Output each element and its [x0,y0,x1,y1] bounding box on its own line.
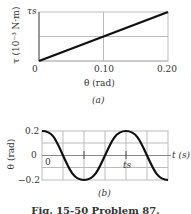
panel-a-y-axis-label: τ (10⁻³ N·m) [11,5,21,65]
panel-b-x-origin: 0 [45,157,51,167]
panel-a-plot [39,12,168,61]
panel-b-caption: (b) [98,188,111,198]
panel-a-x-tick-010: 0.10 [94,64,114,74]
panel-a-caption: (a) [92,95,104,105]
panel-a-x-axis-label: θ (rad) [84,78,115,88]
panel-b-y-tick-zero: 0 [31,150,37,160]
panel-b-y-tick-bottom: −0.2 [18,175,40,185]
panel-a-x-tick-020: 0.20 [157,64,177,74]
panel-b-x-axis-label: t (s) [172,150,190,160]
panel-b-plot [42,131,171,180]
panel-b-y-axis-label: θ (rad) [6,129,16,179]
panel-b-ts-label: ts [123,160,131,170]
panel-a-y-tick-ts: τs [27,6,37,16]
panel-a-x-tick-0: 0 [32,64,38,74]
figure-caption: Fig. 15-50 Problem 87. [0,205,191,214]
panel-b-y-tick-top: 0.2 [25,126,39,136]
